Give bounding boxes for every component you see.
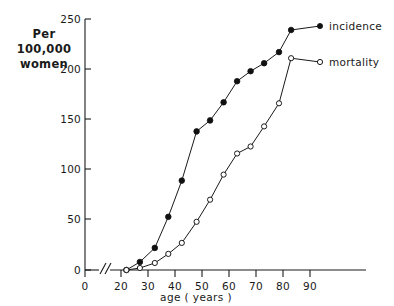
- data-point-incidence-53: [207, 118, 213, 124]
- y-tick-label-150: 150: [60, 113, 81, 125]
- y-axis-caption-line-3: women: [20, 57, 68, 71]
- legend-leader-mortality: [291, 58, 320, 62]
- legend: incidence mortality: [317, 20, 382, 68]
- data-point-mortality-83: [289, 56, 294, 61]
- data-point-mortality-63: [235, 151, 240, 156]
- data-point-mortality-42.5: [179, 240, 184, 245]
- data-point-incidence-37.5: [166, 214, 172, 220]
- x-tick-label-30: 30: [141, 280, 155, 292]
- x-tick-label-80: 80: [276, 280, 290, 292]
- data-point-incidence-42.5: [179, 178, 185, 184]
- series-line-incidence: [126, 30, 291, 270]
- y-tick-label-0: 0: [74, 264, 81, 276]
- x-tick-label-90: 90: [303, 280, 317, 292]
- data-point-mortality-73: [262, 124, 267, 129]
- legend-incidence-marker-icon: [317, 23, 322, 28]
- data-point-mortality-37.5: [166, 251, 171, 256]
- axis-break-mark-2: [105, 263, 111, 274]
- data-point-mortality-68: [248, 144, 253, 149]
- y-tick-label-100: 100: [60, 163, 81, 175]
- legend-leader-incidence: [291, 26, 320, 30]
- data-point-mortality-27: [137, 265, 142, 270]
- series-line-mortality: [126, 58, 291, 270]
- data-point-incidence-68: [248, 68, 254, 74]
- data-point-incidence-32.5: [152, 245, 158, 251]
- data-point-mortality-22: [124, 267, 129, 272]
- x-tick-label-0: 0: [82, 280, 89, 292]
- y-axis-caption-line-2: 100,000: [17, 42, 71, 56]
- data-point-incidence-83: [288, 27, 294, 33]
- data-point-incidence-63: [234, 78, 240, 84]
- chart-page: 250 200 150 100 50 0 0 20 30 40 50 60 70…: [0, 0, 394, 306]
- data-point-mortality-32.5: [152, 260, 157, 265]
- data-point-incidence-73: [261, 60, 267, 66]
- y-axis-caption-line-1: Per: [33, 27, 56, 41]
- data-point-incidence-27: [137, 259, 143, 265]
- incidence-mortality-line-chart: 250 200 150 100 50 0 0 20 30 40 50 60 70…: [0, 0, 394, 306]
- legend-mortality-marker-icon: [317, 59, 322, 64]
- y-tick-marks: [85, 19, 91, 270]
- x-tick-label-70: 70: [249, 280, 263, 292]
- y-tick-label-250: 250: [60, 13, 81, 25]
- data-point-mortality-48: [194, 219, 199, 224]
- data-point-incidence-78.5: [276, 49, 282, 55]
- legend-mortality-label: mortality: [329, 56, 379, 68]
- legend-incidence-label: incidence: [329, 20, 382, 32]
- y-tick-label-50: 50: [67, 213, 81, 225]
- x-tick-marks: [85, 270, 310, 277]
- series-layer: [124, 26, 320, 273]
- data-point-incidence-58: [221, 100, 227, 106]
- x-tick-label-20: 20: [114, 280, 128, 292]
- series-mortality: [124, 56, 294, 273]
- x-axis-title: age ( years ): [160, 291, 232, 303]
- data-point-mortality-78.5: [276, 101, 281, 106]
- axis-break-mark-1: [100, 263, 106, 274]
- series-incidence: [124, 27, 294, 273]
- data-point-incidence-48: [194, 129, 200, 135]
- data-point-mortality-53: [208, 197, 213, 202]
- data-point-mortality-58: [221, 172, 226, 177]
